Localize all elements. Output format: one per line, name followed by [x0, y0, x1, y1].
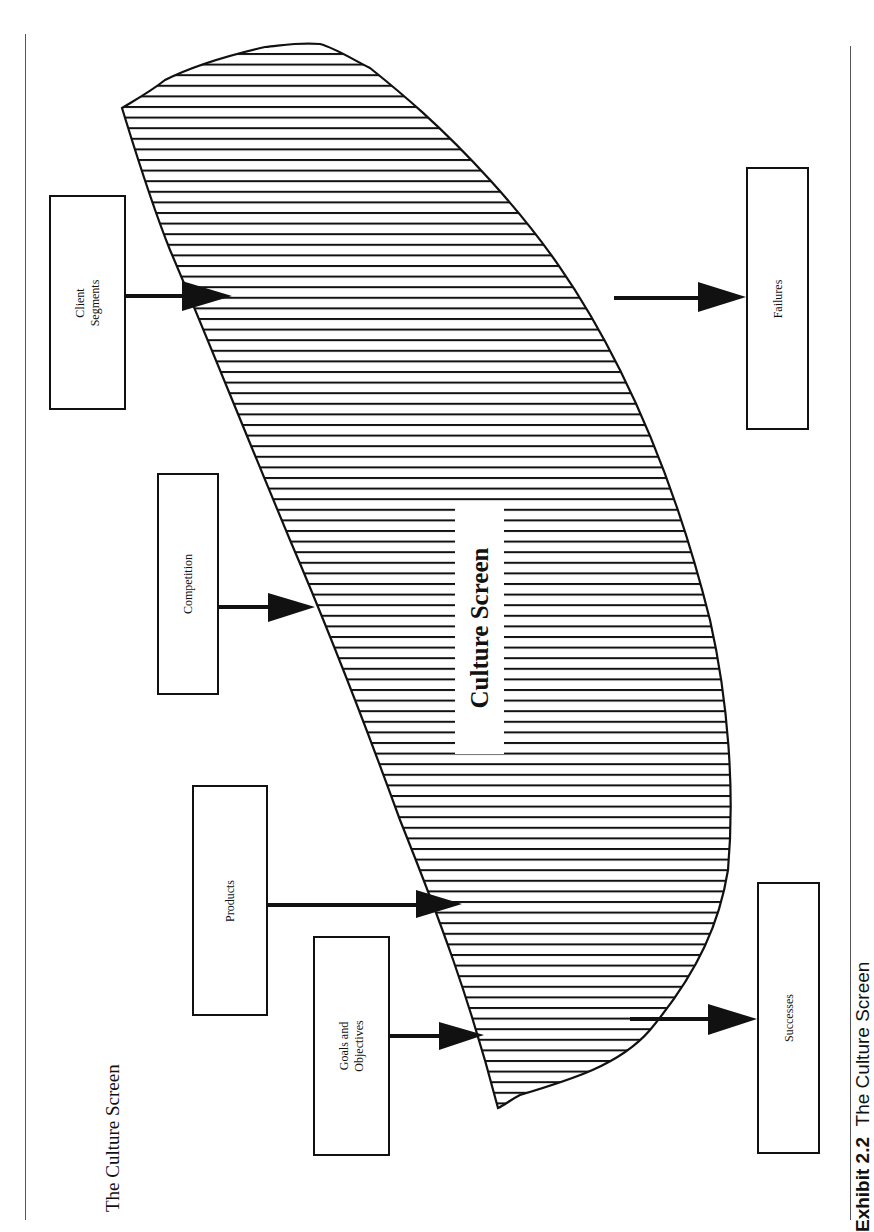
exhibit-caption: Exhibit 2.2 The Culture Screen	[852, 962, 874, 1232]
arrow-competition	[218, 593, 315, 622]
label-line: Client	[73, 279, 88, 326]
culture-screen-label-box: Culture Screen	[455, 502, 504, 754]
box-goals-objectives-label: Goals and Objectives	[337, 1020, 367, 1071]
culture-screen-label: Culture Screen	[466, 548, 494, 709]
exhibit-caption-label: Exhibit 2.2	[852, 1137, 873, 1232]
label-line: Segments	[88, 279, 103, 326]
page-title: The Culture Screen	[102, 1064, 124, 1212]
box-products: Products	[192, 785, 268, 1016]
label-line: Objectives	[352, 1020, 367, 1071]
label-line: Competition	[181, 554, 196, 614]
box-failures: Failures	[746, 167, 809, 430]
label-line: Successes	[781, 994, 796, 1042]
box-competition: Competition	[157, 473, 219, 695]
box-successes-label: Successes	[781, 994, 796, 1042]
label-line: Products	[223, 880, 238, 922]
box-client-segments-label: Client Segments	[73, 279, 103, 326]
label-line: Goals and	[337, 1020, 352, 1071]
box-client-segments: Client Segments	[49, 195, 126, 410]
box-failures-label: Failures	[770, 279, 785, 318]
arrow-goals-objectives	[388, 1022, 484, 1050]
exhibit-caption-text: The Culture Screen	[852, 962, 873, 1127]
box-successes: Successes	[757, 882, 820, 1154]
arrow-failures	[614, 282, 746, 312]
box-competition-label: Competition	[181, 554, 196, 614]
box-goals-objectives: Goals and Objectives	[313, 936, 390, 1156]
label-line: Failures	[770, 279, 785, 318]
box-products-label: Products	[223, 880, 238, 922]
